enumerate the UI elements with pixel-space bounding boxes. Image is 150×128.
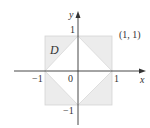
y-tick-neg1: −1 bbox=[63, 105, 74, 116]
x-tick-1: 1 bbox=[114, 73, 119, 84]
x-axis-arrow-icon bbox=[139, 69, 146, 74]
x-tick-neg1: −1 bbox=[32, 73, 43, 84]
origin-label: 0 bbox=[68, 73, 73, 84]
y-tick-1: 1 bbox=[70, 24, 75, 35]
region-diagram: y x 1 −1 −1 1 0 (1, 1) D bbox=[0, 0, 150, 128]
y-axis-label: y bbox=[68, 9, 74, 20]
y-axis-arrow-icon bbox=[76, 11, 81, 18]
point-label: (1, 1) bbox=[119, 29, 141, 41]
region-label: D bbox=[49, 43, 59, 57]
x-axis-label: x bbox=[139, 74, 145, 85]
